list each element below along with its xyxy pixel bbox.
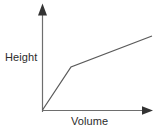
x-axis-arrowhead-icon [142,106,153,115]
y-axis-label: Height [5,51,37,64]
y-axis-arrowhead-icon [38,4,47,16]
data-line-height-vs-volume [43,36,153,110]
chart-figure: Height Volume [0,0,162,135]
x-axis-label: Volume [71,115,108,128]
